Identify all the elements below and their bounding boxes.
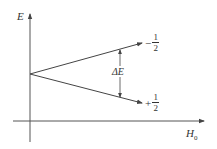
lower-sign: +: [145, 97, 151, 109]
lower-level-spin-label: + 1 2: [145, 93, 159, 112]
x-axis-label: H0: [186, 127, 197, 142]
delta-e-label: ΔE: [111, 66, 125, 77]
upper-denominator: 2: [153, 44, 158, 52]
x-axis-label-main: H: [186, 127, 194, 139]
upper-numerator: 1: [153, 33, 158, 41]
lower-denominator: 2: [153, 104, 158, 112]
upper-level-spin-label: − 1 2: [145, 33, 159, 52]
lower-numerator: 1: [153, 93, 158, 101]
upper-level-line: [30, 43, 142, 74]
y-axis-label: E: [17, 10, 24, 22]
lower-level-line: [30, 74, 142, 103]
diagram-lines: [0, 0, 217, 149]
upper-sign: −: [145, 37, 151, 49]
x-axis-label-sub: 0: [194, 134, 198, 142]
diagram-canvas: E H0 ΔE − 1 2 + 1 2: [0, 0, 217, 149]
